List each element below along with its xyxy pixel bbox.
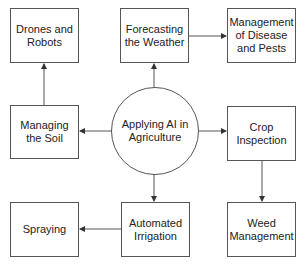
node-label: Spraying bbox=[23, 223, 66, 236]
node-crop-inspection: Crop Inspection bbox=[227, 106, 296, 161]
node-label: Automated Irrigation bbox=[124, 217, 187, 243]
node-automated-irrigation: Automated Irrigation bbox=[121, 202, 190, 257]
diagram-canvas: Drones and Robots Forecasting the Weathe… bbox=[0, 0, 307, 271]
node-managing-the-soil: Managing the Soil bbox=[10, 105, 79, 159]
node-management-of-disease-and-pests: Management of Disease and Pests bbox=[227, 8, 296, 63]
node-label: Managing the Soil bbox=[13, 119, 76, 145]
node-label: Forecasting the Weather bbox=[123, 23, 186, 49]
node-weed-management: Weed Management bbox=[227, 202, 296, 257]
node-label: Management of Disease and Pests bbox=[229, 16, 293, 55]
node-drones-and-robots: Drones and Robots bbox=[10, 8, 79, 63]
node-forecasting-the-weather: Forecasting the Weather bbox=[120, 8, 189, 63]
center-node-applying-ai: Applying AI in Agriculture bbox=[111, 87, 199, 175]
node-label: Drones and Robots bbox=[13, 23, 76, 49]
center-label: Applying AI in Agriculture bbox=[118, 118, 192, 144]
node-spraying: Spraying bbox=[10, 202, 79, 257]
node-label: Weed Management bbox=[229, 217, 293, 243]
node-label: Crop Inspection bbox=[230, 121, 293, 147]
